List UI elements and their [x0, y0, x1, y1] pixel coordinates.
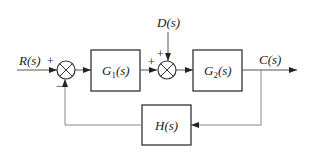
sum1-minus-sign: −	[56, 79, 63, 93]
summing-junction-2	[158, 61, 176, 79]
output-label: C(s)	[259, 52, 281, 67]
h-label: H(s)	[154, 118, 178, 133]
g2-label: G2(s)	[204, 63, 232, 80]
sum2-top-plus-sign: +	[157, 47, 164, 61]
input-label: R(s)	[18, 53, 41, 68]
block-diagram: R(s) + − G1(s) + D(s) + G2(s) C(s) H(s)	[0, 0, 313, 155]
summing-junction-1	[57, 61, 75, 79]
sum1-plus-sign: +	[47, 54, 54, 68]
disturbance-label: D(s)	[156, 15, 180, 30]
sum2-left-plus-sign: +	[148, 55, 155, 69]
g1-label: G1(s)	[102, 63, 130, 80]
